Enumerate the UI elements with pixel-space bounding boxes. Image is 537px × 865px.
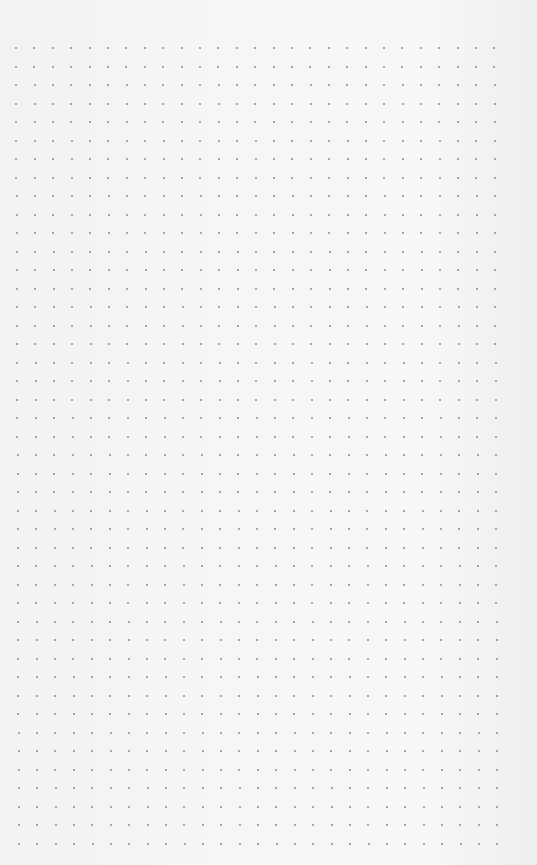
- grid-dot: [329, 343, 331, 345]
- grid-dot: [201, 547, 203, 549]
- grid-dot: [219, 602, 221, 604]
- grid-dot: [199, 121, 201, 123]
- grid-dot: [164, 528, 166, 530]
- grid-dot: [331, 843, 333, 845]
- grid-dot: [52, 195, 54, 197]
- grid-dot: [182, 362, 184, 364]
- grid-dot: [164, 584, 166, 586]
- grid-dot: [164, 565, 166, 567]
- grid-dot: [422, 713, 424, 715]
- grid-dot: [274, 491, 276, 493]
- grid-dot: [422, 658, 424, 660]
- grid-dot: [200, 343, 202, 345]
- grid-dot: [182, 547, 184, 549]
- grid-dot: [257, 806, 259, 808]
- grid-dot: [385, 454, 387, 456]
- grid-dot: [403, 565, 405, 567]
- grid-dot: [276, 843, 278, 845]
- grid-dot: [273, 84, 275, 86]
- grid-dot: [402, 177, 404, 179]
- grid-dot: [91, 639, 93, 641]
- grid-dot: [127, 380, 129, 382]
- grid-dot: [18, 806, 20, 808]
- grid-dot: [201, 454, 203, 456]
- grid-dot: [256, 565, 258, 567]
- grid-dot: [55, 787, 57, 789]
- grid-dot: [15, 140, 17, 142]
- grid-dot: [365, 66, 367, 68]
- grid-dot: [110, 824, 112, 826]
- grid-dot: [273, 195, 275, 197]
- grid-dot: [219, 510, 221, 512]
- grid-dot: [53, 454, 55, 456]
- grid-dot: [275, 676, 277, 678]
- dot-grid: [0, 0, 537, 865]
- grid-dot: [404, 713, 406, 715]
- grid-dot: [71, 214, 73, 216]
- grid-dot: [54, 769, 56, 771]
- grid-dot: [365, 84, 367, 86]
- grid-dot: [292, 436, 294, 438]
- grid-dot: [422, 769, 424, 771]
- grid-dot: [476, 269, 478, 271]
- grid-dot: [365, 214, 367, 216]
- grid-dot: [494, 251, 496, 253]
- grid-dot: [202, 843, 204, 845]
- grid-dot: [35, 565, 37, 567]
- grid-dot: [293, 602, 295, 604]
- grid-dot: [90, 417, 92, 419]
- grid-dot: [385, 510, 387, 512]
- grid-dot: [34, 232, 36, 234]
- grid-dot: [275, 750, 277, 752]
- grid-dot: [146, 750, 148, 752]
- grid-dot: [496, 769, 498, 771]
- grid-dot: [108, 399, 110, 401]
- grid-dot: [17, 510, 19, 512]
- grid-dot: [15, 158, 17, 160]
- grid-dot: [291, 84, 293, 86]
- grid-dot: [219, 491, 221, 493]
- grid-dot: [457, 140, 459, 142]
- grid-dot: [458, 380, 460, 382]
- grid-dot: [91, 565, 93, 567]
- grid-dot: [107, 121, 109, 123]
- grid-dot: [165, 713, 167, 715]
- grid-dot: [110, 843, 112, 845]
- grid-dot: [36, 824, 38, 826]
- grid-dot: [54, 750, 56, 752]
- grid-dot: [16, 343, 18, 345]
- grid-dot: [90, 436, 92, 438]
- grid-dot: [421, 399, 423, 401]
- grid-dot: [420, 66, 422, 68]
- grid-dot: [126, 177, 128, 179]
- grid-dot: [218, 232, 220, 234]
- grid-dot: [17, 713, 19, 715]
- grid-dot: [423, 806, 425, 808]
- grid-dot: [35, 528, 37, 530]
- grid-dot: [18, 750, 20, 752]
- grid-dot: [126, 306, 128, 308]
- grid-dot: [181, 103, 183, 105]
- grid-dot: [73, 695, 75, 697]
- grid-dot: [107, 177, 109, 179]
- grid-dot: [459, 695, 461, 697]
- grid-dot: [328, 177, 330, 179]
- grid-dot: [458, 362, 460, 364]
- grid-dot: [236, 47, 238, 49]
- grid-dot: [495, 565, 497, 567]
- grid-dot: [294, 806, 296, 808]
- grid-dot: [349, 732, 351, 734]
- grid-dot: [89, 177, 91, 179]
- grid-dot: [439, 214, 441, 216]
- grid-dot: [90, 454, 92, 456]
- grid-dot: [127, 399, 129, 401]
- grid-dot: [328, 47, 330, 49]
- grid-dot: [52, 140, 54, 142]
- grid-dot: [403, 380, 405, 382]
- grid-dot: [256, 473, 258, 475]
- grid-dot: [91, 824, 93, 826]
- grid-dot: [457, 121, 459, 123]
- grid-dot: [384, 269, 386, 271]
- grid-dot: [108, 195, 110, 197]
- grid-dot: [403, 473, 405, 475]
